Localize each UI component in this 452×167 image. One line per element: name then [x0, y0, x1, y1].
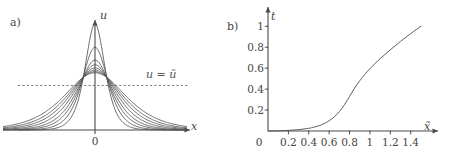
- panel-a: a) u x 0 u = ũ: [0, 0, 226, 167]
- panel-a-plot: [0, 0, 226, 167]
- panel-b: b) t x̃ 0 0.20.40.60.810.20.40.60.811.21…: [226, 0, 452, 167]
- ytick-label: 0.2: [224, 104, 264, 116]
- xtick-label: 0.6: [318, 136, 340, 148]
- xtick-label: 1: [359, 136, 381, 148]
- t-axis-arrowhead: [265, 7, 270, 13]
- curve-t-of-xtilde: [268, 26, 421, 131]
- axis-label-t: t: [271, 10, 275, 23]
- ytick-label: 0.6: [224, 62, 264, 74]
- xtick-label: 0.8: [339, 136, 361, 148]
- u-axis-arrowhead: [92, 20, 97, 26]
- xtick-label: 0.4: [298, 136, 320, 148]
- origin-label-b: 0: [250, 136, 268, 148]
- axis-label-x: x: [191, 120, 197, 133]
- xtick-label: 1.2: [379, 136, 401, 148]
- axis-label-xtilde: x̃: [424, 120, 430, 133]
- ytick-label: 0.4: [224, 83, 264, 95]
- xtilde-axis-arrowhead: [433, 128, 439, 133]
- axis-label-u: u: [100, 9, 107, 22]
- xtick-label: 1.4: [400, 136, 422, 148]
- figure-container: a) u x 0 u = ũ b) t x̃ 0 0.20.40.60.810.…: [0, 0, 452, 167]
- ytick-label: 0.8: [224, 41, 264, 53]
- ytick-label: 1: [224, 20, 264, 32]
- annotation-u-equals-utilde: u = ũ: [146, 68, 176, 81]
- xtick-label: 0.2: [277, 136, 299, 148]
- origin-label-a: 0: [86, 135, 104, 147]
